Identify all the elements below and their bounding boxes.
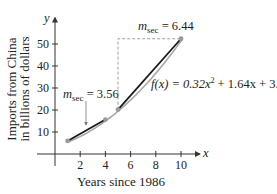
function-label-suffix: + 1.64x + 3.98: [214, 77, 277, 91]
secant-label-2-m: m: [138, 19, 147, 33]
data-point: [179, 36, 184, 41]
secant-line: [68, 120, 106, 141]
secant-label-2: msec = 6.44: [138, 19, 194, 35]
secant-label-2-sub: sec: [147, 25, 159, 35]
data-point: [65, 139, 70, 144]
secant-label-2-value: = 6.44: [159, 19, 195, 33]
secant-label-1: msec = 3.56: [63, 87, 119, 103]
x-tick-label: 8: [153, 158, 159, 172]
x-tick-label: 2: [77, 158, 83, 172]
x-axis-letter: x: [202, 146, 209, 160]
function-label: f(x) = 0.32x2 + 1.64x + 3.98: [151, 76, 277, 91]
y-tick-label: 10: [37, 125, 49, 139]
secant-label-1-m: m: [63, 87, 72, 101]
secant-label-1-value: = 3.56: [84, 87, 119, 101]
y-tick-label: 50: [37, 37, 49, 51]
function-label-prefix: f(x) = 0.32x: [151, 77, 211, 91]
x-tick-label: 10: [175, 158, 187, 172]
y-tick-label: 20: [37, 103, 49, 117]
y-axis-letter: y: [42, 11, 50, 25]
x-tick-label: 6: [128, 158, 134, 172]
x-tick-label: 4: [102, 158, 108, 172]
y-tick-label: 40: [37, 59, 49, 73]
y-tick-label: 30: [37, 81, 49, 95]
secant-line: [118, 39, 181, 110]
chart: x y 246810 1020304050 Years since 1986 I…: [0, 0, 277, 194]
y-axis-title-line-2: in billions of dollars: [17, 36, 32, 141]
x-axis-title: Years since 1986: [77, 174, 166, 189]
data-point: [103, 117, 108, 122]
data-point: [116, 107, 121, 112]
secant-label-1-sub: sec: [72, 93, 84, 103]
